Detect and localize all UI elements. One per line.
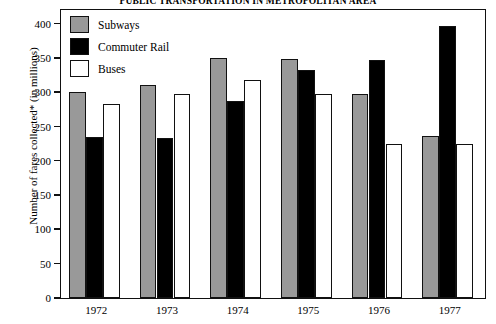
bar-group bbox=[344, 10, 415, 298]
bar-buses-1973 bbox=[174, 94, 191, 298]
bar-group bbox=[273, 10, 344, 298]
bar-rail-1975 bbox=[298, 70, 315, 298]
bar-buses-1974 bbox=[244, 80, 261, 298]
bar-rail-1973 bbox=[157, 138, 174, 298]
x-axis-tick-label: 1974 bbox=[202, 304, 273, 316]
bar-subways-1972 bbox=[69, 92, 86, 298]
y-axis-tick-label: 250 bbox=[35, 121, 52, 133]
legend-swatch-rail bbox=[70, 38, 89, 55]
x-axis-tick-label: 1972 bbox=[61, 304, 132, 316]
legend-label-subways: Subways bbox=[98, 19, 140, 31]
bar-subways-1973 bbox=[140, 85, 157, 298]
legend-swatch-subways bbox=[70, 16, 89, 33]
x-axis-tick-label: 1973 bbox=[132, 304, 203, 316]
legend-label-buses: Buses bbox=[98, 63, 125, 75]
bar-rail-1976 bbox=[369, 60, 386, 298]
bar-rail-1977 bbox=[439, 26, 456, 298]
y-axis-tick-label: 350 bbox=[35, 52, 52, 64]
y-axis-tick-label: 300 bbox=[35, 86, 52, 98]
x-axis: 197219731974197519761977 bbox=[60, 300, 486, 324]
bar-rail-1972 bbox=[86, 137, 103, 298]
bar-subways-1975 bbox=[281, 59, 298, 298]
bar-buses-1976 bbox=[386, 144, 403, 298]
bar-group bbox=[414, 10, 485, 298]
legend-label-rail: Commuter Rail bbox=[98, 41, 169, 53]
bar-buses-1977 bbox=[456, 144, 473, 298]
bar-rail-1974 bbox=[227, 101, 244, 298]
bar-subways-1977 bbox=[422, 136, 439, 299]
legend-item-subways: Subways bbox=[70, 14, 220, 35]
y-axis-tick-label: 100 bbox=[35, 223, 52, 235]
y-axis-tick-label: 200 bbox=[35, 155, 52, 167]
y-axis-tick-label: 400 bbox=[35, 18, 52, 30]
legend-item-buses: Buses bbox=[70, 58, 220, 79]
legend-swatch-buses bbox=[70, 60, 89, 77]
legend-item-rail: Commuter Rail bbox=[70, 36, 220, 57]
y-axis-tick-label: 150 bbox=[35, 189, 52, 201]
bar-subways-1976 bbox=[352, 94, 369, 298]
x-axis-tick-label: 1976 bbox=[344, 304, 415, 316]
bar-buses-1975 bbox=[315, 94, 332, 298]
y-axis: 050100150200250300350400 bbox=[0, 0, 60, 324]
y-axis-tick-label: 50 bbox=[40, 258, 51, 270]
chart-title: PUBLIC TRANSPORTATION IN METROPOLITAN AR… bbox=[0, 0, 496, 5]
bar-buses-1972 bbox=[103, 104, 120, 298]
x-axis-tick-label: 1975 bbox=[273, 304, 344, 316]
x-axis-tick-label: 1977 bbox=[414, 304, 485, 316]
chart-legend: SubwaysCommuter RailBuses bbox=[70, 14, 220, 80]
y-axis-tick-label: 0 bbox=[46, 292, 52, 304]
bar-subways-1974 bbox=[210, 58, 227, 298]
